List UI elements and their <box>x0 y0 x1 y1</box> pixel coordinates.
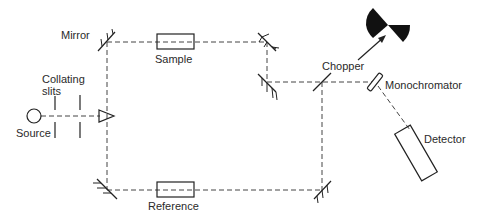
reference-label: Reference <box>148 200 199 212</box>
mirror-bottom-right-icon <box>314 181 331 203</box>
mirror-label: Mirror <box>61 29 90 41</box>
collating-slits-label-line2: slits <box>42 85 61 97</box>
spectrophotometer-diagram: Mirror Sample Collating slits Source Ref… <box>0 0 485 223</box>
mono-to-detector-beam <box>378 86 410 130</box>
sample-label: Sample <box>155 53 192 65</box>
monochromator-label: Monochromator <box>385 79 462 91</box>
chopper-blade-icon <box>366 8 410 42</box>
chopper-arrow-icon <box>358 35 386 60</box>
chopper-label: Chopper <box>322 60 364 72</box>
source-icon <box>27 109 41 123</box>
mirror-bottom-left-icon <box>93 179 117 199</box>
monochromator-icon <box>367 73 383 92</box>
collating-slits-label-line1: Collating <box>42 73 85 85</box>
source-label: Source <box>16 127 51 139</box>
mirror-top-left-icon <box>98 29 115 51</box>
detector-label: Detector <box>424 133 466 145</box>
